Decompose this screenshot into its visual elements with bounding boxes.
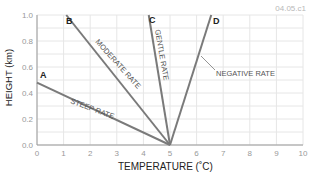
grid [37,15,303,145]
x-tick: 2 [88,149,93,158]
label-steep-rate: STEEP RATE [69,96,115,121]
x-tick: 8 [248,149,253,158]
series-letter-d: D [213,16,220,26]
label-moderate-rate: MODERATE RATE [94,37,143,90]
x-tick: 5 [168,149,173,158]
y-tick: 0.0 [22,141,34,150]
x-tick: 1 [61,149,66,158]
x-tick: 0 [35,149,40,158]
chart-plot: 0123456789100.00.20.40.60.81.0 ABCDSTEEP… [0,0,312,177]
leader-line [201,56,215,70]
x-tick: 4 [141,149,146,158]
tick-labels: 0123456789100.00.20.40.60.81.0 [22,11,308,158]
x-tick: 3 [115,149,120,158]
x-tick: 7 [221,149,226,158]
y-tick: 0.4 [22,89,34,98]
y-tick: 1.0 [22,11,34,20]
x-tick: 10 [299,149,308,158]
y-tick: 0.2 [22,115,34,124]
series-letter-c: C [149,15,156,25]
x-tick: 6 [194,149,199,158]
label-negative-rate: NEGATIVE RATE [216,69,275,78]
x-tick: 9 [274,149,279,158]
y-tick: 0.8 [22,37,34,46]
series-letter-b: B [66,16,73,26]
y-tick: 0.6 [22,63,34,72]
series-letter-a: A [40,70,47,80]
